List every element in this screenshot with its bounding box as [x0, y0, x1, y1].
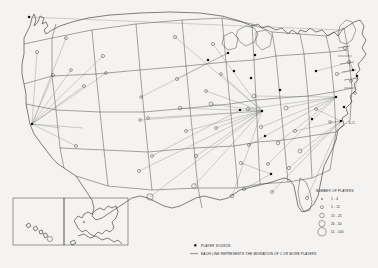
migration-flow-line: [316, 63, 347, 71]
size-legend-symbol: [321, 206, 324, 209]
player-source-marker: [340, 120, 342, 122]
florida-peninsula: [298, 178, 312, 212]
player-source-marker: [207, 59, 209, 61]
migration-flow-line: [345, 48, 353, 70]
player-source-marker: [356, 75, 358, 77]
migration-flow-line: [141, 53, 228, 97]
map-canvas: NUMBER OF PLAYERS 1 - 45 - 1213 - 2526 -…: [0, 0, 378, 268]
migration-flow-line: [194, 111, 262, 186]
migration-flow-line: [148, 111, 262, 118]
player-source-marker: [279, 89, 281, 91]
player-source-marker: [352, 69, 354, 71]
migration-flow-line: [150, 111, 262, 197]
player-source-marker: [270, 173, 272, 175]
player-source-marker: [250, 77, 252, 79]
migration-flow-line: [139, 111, 262, 171]
player-source-marker: [311, 118, 313, 120]
migration-line-legend-label: EACH LINE REPRESENTS THE MIGRATION OF 1 …: [201, 252, 317, 256]
player-source-marker: [254, 54, 256, 56]
migration-flow-line: [286, 97, 336, 108]
migration-flow-line: [261, 97, 336, 127]
migration-flow-line: [175, 37, 262, 111]
migration-flow-line: [244, 174, 271, 189]
player-source-marker: [264, 135, 266, 137]
size-legend-label: 26 - 50: [331, 222, 342, 226]
migration-flow-line: [196, 111, 262, 156]
player-bubbles: [35, 35, 356, 200]
migration-flow-line: [29, 17, 340, 30]
migration-flow-line: [32, 56, 103, 124]
great-lakes: [222, 26, 272, 50]
migration-flow-line: [32, 86, 84, 124]
player-source-marker: [28, 16, 30, 18]
alaska-landmass: [70, 206, 122, 245]
alaska-inset-box: [64, 198, 128, 245]
migration-map: NUMBER OF PLAYERS 1 - 45 - 1213 - 2526 -…: [0, 0, 378, 268]
symbol-legend: PLAYER SOURCE EACH LINE REPRESENTS THE M…: [190, 244, 317, 256]
migration-flow-line: [232, 111, 262, 196]
state-border-group-east: [272, 28, 352, 182]
state-border-group-plains: [136, 18, 238, 208]
migration-flow-line: [186, 111, 262, 131]
size-legend-label: 1 - 4: [331, 197, 338, 201]
size-legend-symbol: [318, 228, 326, 236]
size-legend-symbol: [321, 198, 322, 199]
map-annotations: D.C.: [349, 121, 356, 125]
size-legend-symbol: [320, 213, 325, 218]
player-source-marker: [335, 96, 337, 98]
size-legend-label: 5 - 12: [331, 205, 340, 209]
player-source-marker: [239, 109, 241, 111]
state-border-group-midwest: [222, 18, 288, 188]
migration-flow-line: [140, 111, 262, 120]
size-legend-symbol: [319, 221, 325, 227]
migration-flow-line: [249, 97, 336, 145]
state-border-group-west: [24, 24, 152, 190]
player-source-marker: [31, 123, 33, 125]
size-legend: NUMBER OF PLAYERS 1 - 45 - 1213 - 2526 -…: [316, 189, 354, 236]
migration-flow-line: [268, 97, 336, 164]
migration-flow-line: [248, 97, 336, 109]
size-legend-label: 13 - 25: [331, 214, 342, 218]
player-source-marker: [227, 52, 229, 54]
player-source-legend-label: PLAYER SOURCE: [201, 244, 230, 248]
player-source-marker: [261, 110, 263, 112]
size-legend-title: NUMBER OF PLAYERS: [316, 189, 354, 193]
hawaii-inset-box: [13, 198, 64, 245]
migration-flow-line: [272, 121, 341, 192]
migration-flow-line: [278, 97, 336, 143]
dc-label: D.C.: [349, 121, 356, 125]
hawaii-islands: [26, 223, 53, 242]
migration-flow-line: [316, 109, 341, 121]
migration-flow-line: [307, 121, 341, 198]
player-source-marker: [315, 70, 317, 72]
inset-panels: [13, 198, 128, 245]
player-source-marker: [233, 70, 235, 72]
size-legend-label: 51 - 100: [331, 230, 344, 234]
migration-flow-line: [32, 38, 66, 124]
player-source-legend-icon: [194, 244, 196, 246]
player-source-marker: [343, 106, 345, 108]
player-source-markers: [28, 16, 358, 175]
